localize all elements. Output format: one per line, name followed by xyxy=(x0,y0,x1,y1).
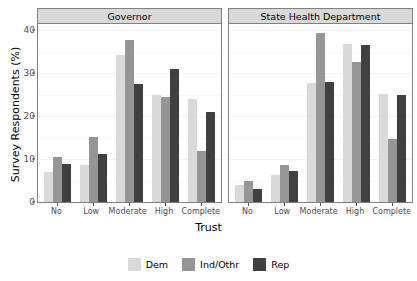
bar-group xyxy=(338,24,374,202)
x-axis-tick-mark xyxy=(129,203,130,206)
bar xyxy=(253,189,262,202)
x-axis-tick-label: No xyxy=(39,207,74,219)
x-axis-tick-label: Complete xyxy=(372,207,411,219)
legend-item: Ind/Othr xyxy=(182,258,239,271)
bar xyxy=(307,83,316,202)
legend-label: Rep xyxy=(271,259,289,270)
y-axis-tick-mark xyxy=(32,159,35,160)
bar xyxy=(244,181,253,202)
bar xyxy=(206,112,215,202)
bar xyxy=(116,55,125,202)
y-axis-tick-mark xyxy=(32,202,35,203)
bar xyxy=(197,151,206,202)
bar-group xyxy=(76,24,112,202)
legend-item: Dem xyxy=(128,258,168,271)
x-axis-tick-mark xyxy=(284,203,285,206)
bar xyxy=(361,45,370,202)
legend-label: Ind/Othr xyxy=(200,259,239,270)
facet-panel: Governor xyxy=(37,8,222,203)
x-label-panel: NoLowModerateHighComplete xyxy=(37,207,222,219)
bar-group xyxy=(183,24,219,202)
y-axis-tick-mark xyxy=(32,73,35,74)
legend-item: Rep xyxy=(253,258,289,271)
bar xyxy=(271,175,280,202)
y-axis: 010203040 xyxy=(4,0,35,281)
bar xyxy=(98,154,107,202)
bar xyxy=(289,171,298,202)
facet-panel: State Health Department xyxy=(228,8,413,203)
x-axis-tick-label: No xyxy=(230,207,265,219)
bar xyxy=(379,94,388,202)
x-axis-tick-label: Moderate xyxy=(109,207,147,219)
x-axis-title: Trust xyxy=(0,221,417,234)
x-axis-tick-label: High xyxy=(147,207,182,219)
bar-group xyxy=(40,24,76,202)
x-label-panel: NoLowModerateHighComplete xyxy=(228,207,413,219)
bar-group xyxy=(267,24,303,202)
x-axis-tick-mark xyxy=(356,203,357,206)
x-axis-tick-mark xyxy=(93,203,94,206)
bar xyxy=(188,99,197,202)
bar xyxy=(152,95,161,202)
x-axis-tick-label: High xyxy=(338,207,373,219)
x-axis-tick-labels: NoLowModerateHighCompleteNoLowModerateHi… xyxy=(37,207,413,219)
bar xyxy=(134,84,143,202)
x-axis-tick-label: Complete xyxy=(181,207,220,219)
bar xyxy=(62,164,71,202)
bar-group xyxy=(112,24,148,202)
bar-container xyxy=(38,24,221,202)
x-axis-tick-label: Moderate xyxy=(300,207,338,219)
bar xyxy=(388,139,397,202)
plot-area xyxy=(228,24,413,203)
x-axis-tick-mark xyxy=(165,203,166,206)
legend-color-swatch xyxy=(182,258,195,271)
x-axis-tick-mark xyxy=(201,203,202,206)
bar xyxy=(89,137,98,202)
bar xyxy=(325,82,334,202)
bar xyxy=(316,33,325,202)
bar-group xyxy=(231,24,267,202)
bar-group xyxy=(147,24,183,202)
bar xyxy=(170,69,179,202)
bar-group xyxy=(303,24,339,202)
y-axis-tick-mark xyxy=(32,116,35,117)
x-axis-tick-mark xyxy=(248,203,249,206)
plot-area xyxy=(37,24,222,203)
x-axis-tick-mark xyxy=(57,203,58,206)
x-axis-tick-mark xyxy=(392,203,393,206)
chart-legend: DemInd/OthrRep xyxy=(0,255,417,273)
x-axis-tick-label: Low xyxy=(74,207,109,219)
bar xyxy=(343,44,352,202)
bar-group xyxy=(374,24,410,202)
bar xyxy=(352,62,361,202)
legend-color-swatch xyxy=(128,258,141,271)
facet-strip-label: State Health Department xyxy=(228,8,413,24)
facet-strip-label: Governor xyxy=(37,8,222,24)
bar xyxy=(235,185,244,202)
bar xyxy=(53,157,62,202)
chart-figure: Survey Respondents (%) 010203040 Governo… xyxy=(0,0,417,281)
x-axis-tick-label: Low xyxy=(265,207,300,219)
bar xyxy=(280,165,289,202)
bar-container xyxy=(229,24,412,202)
y-axis-tick-mark xyxy=(32,30,35,31)
x-axis-tick-mark xyxy=(320,203,321,206)
bar xyxy=(125,40,134,202)
legend-color-swatch xyxy=(253,258,266,271)
facet-panels: GovernorState Health Department xyxy=(37,8,413,203)
legend-label: Dem xyxy=(146,259,168,270)
bar xyxy=(44,172,53,202)
bar xyxy=(161,97,170,203)
bar xyxy=(397,95,406,202)
bar xyxy=(80,165,89,202)
